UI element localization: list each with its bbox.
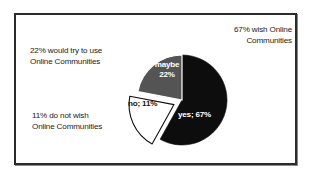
- slice-label-maybe: maybe 22%: [146, 60, 188, 80]
- callout-yes: 67% wish Online Communities: [196, 24, 292, 46]
- slice-label-no: no; 11%: [128, 99, 168, 109]
- callout-maybe: 22% would try to use Online Communities: [30, 45, 150, 67]
- slice-label-yes: yes; 67%: [178, 110, 226, 120]
- chart-canvas: 67% wish Online Communities 22% would tr…: [0, 0, 312, 179]
- callout-no: 11% do not wish Online Communities: [32, 110, 150, 132]
